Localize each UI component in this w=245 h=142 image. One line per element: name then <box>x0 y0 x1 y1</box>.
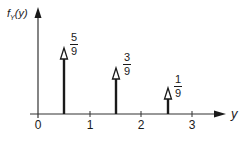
impulse-1.5 <box>113 68 120 114</box>
impulse-0.5 <box>61 48 68 114</box>
x-tick-label-3: 3 <box>186 119 198 131</box>
hollow-arrowhead-icon <box>165 88 172 99</box>
value-label-1-9: 1 9 <box>174 74 182 99</box>
value-label-5-9: 5 9 <box>70 32 78 57</box>
y-axis-label: fY(y) <box>7 7 28 24</box>
x-tick-label-1: 1 <box>84 119 96 131</box>
x-tick-label-0: 0 <box>32 119 44 131</box>
hollow-arrowhead-icon <box>113 68 120 79</box>
impulse-2.5 <box>165 88 172 114</box>
x-axis-arrow-icon <box>214 111 226 118</box>
value-label-3-9: 3 9 <box>123 52 131 77</box>
hollow-arrowhead-icon <box>61 48 68 59</box>
y-axis-arrow-icon <box>35 7 42 18</box>
x-axis-label: y <box>231 108 238 120</box>
x-tick-label-2: 2 <box>135 119 147 131</box>
